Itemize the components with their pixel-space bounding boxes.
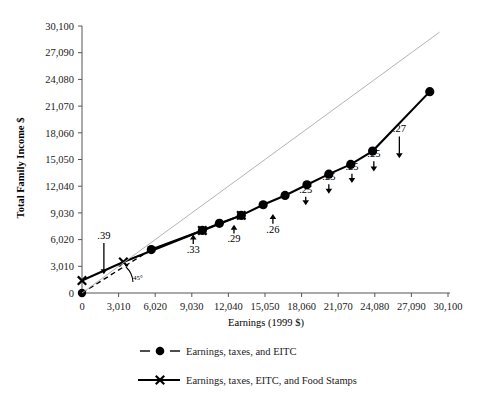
chart-container: 03,0106,0209,03012,04015,05018,06021,070… (0, 0, 484, 404)
x-tick-label: 18,060 (287, 301, 316, 312)
y-tick-label: 18,060 (45, 128, 74, 139)
annotation-label: .39 (97, 230, 110, 241)
y-tick-label: 6,020 (50, 234, 74, 245)
annotation-label: 45° (133, 274, 143, 282)
y-tick-label: 9,030 (50, 208, 74, 219)
annotation-label: .25 (367, 148, 380, 159)
y-tick-label: 15,050 (45, 154, 74, 165)
x-tick-label: 15,050 (251, 301, 280, 312)
y-tick-label: 27,090 (45, 47, 74, 58)
x-tick-label: 0 (79, 301, 84, 312)
y-tick-label: 24,080 (45, 74, 74, 85)
x-tick-label: 9,030 (180, 301, 204, 312)
x-tick-label: 30,100 (434, 301, 463, 312)
x-axis-title: Earnings (1999 $) (228, 317, 304, 329)
x-tick-label: 12,040 (214, 301, 243, 312)
annotation-label: .25 (299, 184, 312, 195)
legend-label: Earnings, taxes, and EITC (186, 346, 297, 357)
y-axis-title: Total Family Income $ (15, 118, 26, 219)
annotation-label: .26 (266, 224, 279, 235)
annotation-label: .29 (227, 233, 240, 244)
y-tick-label: 3,010 (50, 261, 74, 272)
data-point-circle (425, 87, 434, 96)
y-tick-label: 21,070 (45, 101, 74, 112)
y-tick-label: 12,040 (45, 181, 74, 192)
x-tick-label: 21,070 (324, 301, 353, 312)
legend-marker-circle (156, 347, 165, 356)
x-tick-label: 6,020 (143, 301, 167, 312)
chart-background (0, 0, 484, 404)
data-point-circle (259, 200, 268, 209)
legend-label: Earnings, taxes, EITC, and Food Stamps (186, 375, 357, 386)
annotation-label: .33 (187, 244, 200, 255)
x-tick-label: 3,010 (107, 301, 131, 312)
y-tick-label: 30,100 (45, 21, 74, 32)
annotation-label: .27 (393, 123, 406, 134)
x-tick-label: 27,090 (397, 301, 426, 312)
x-tick-label: 24,080 (360, 301, 389, 312)
annotation-label: .25 (322, 171, 335, 182)
y-tick-label: 0 (69, 288, 74, 299)
data-point-circle (280, 191, 289, 200)
income-earnings-line-chart: 03,0106,0209,03012,04015,05018,06021,070… (0, 0, 484, 404)
annotation-label: .25 (345, 161, 358, 172)
